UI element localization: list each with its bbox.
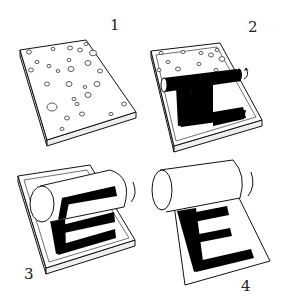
step-4-number: 4 xyxy=(241,277,251,295)
rotation-arrow-icon-3 xyxy=(131,182,135,202)
step-1-number: 1 xyxy=(110,16,120,34)
diagram-svg xyxy=(0,0,288,305)
panel-1-plate xyxy=(20,40,136,146)
step-3-number: 3 xyxy=(24,265,34,283)
rotation-arrow-icon-4 xyxy=(248,172,253,196)
printing-process-diagram: 1 2 3 4 xyxy=(0,0,288,305)
step-2-number: 2 xyxy=(248,18,258,36)
